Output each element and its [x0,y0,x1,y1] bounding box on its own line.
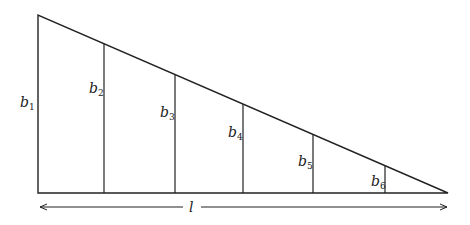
label-b6: b6 [371,173,386,191]
triangle-diagram: b1b2b3b4b5b6l [0,0,470,225]
label-b1: b1 [20,94,35,112]
label-b4: b4 [228,124,243,142]
label-b5: b5 [298,153,313,171]
label-b2: b2 [89,80,104,98]
label-length: l [189,199,193,215]
label-b3: b3 [160,104,175,122]
